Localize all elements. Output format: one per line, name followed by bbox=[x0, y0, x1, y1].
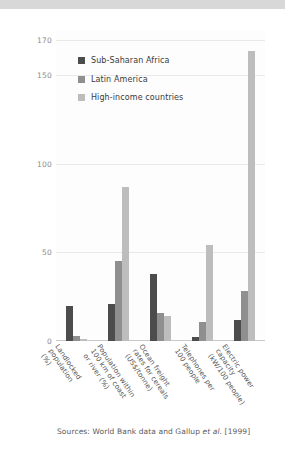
y-axis-tick-label: 0 bbox=[22, 337, 52, 346]
legend-item: Latin America bbox=[78, 75, 183, 84]
bar bbox=[248, 51, 255, 342]
bar bbox=[206, 245, 213, 341]
bar bbox=[199, 322, 206, 341]
legend-label: Latin America bbox=[91, 75, 148, 84]
bar-group bbox=[234, 31, 255, 341]
legend-label: High-income countries bbox=[91, 93, 183, 102]
source-note: Sources: World Bank data and Gallup et a… bbox=[57, 427, 250, 436]
bar bbox=[108, 304, 115, 341]
bar bbox=[150, 274, 157, 341]
bar bbox=[115, 261, 122, 341]
bar bbox=[73, 336, 80, 341]
y-axis-tick-label: 50 bbox=[22, 248, 52, 257]
bar bbox=[66, 306, 73, 341]
bar bbox=[192, 337, 199, 341]
bar-group bbox=[192, 31, 213, 341]
legend-item: Sub-Saharan Africa bbox=[78, 56, 183, 65]
bar bbox=[234, 320, 241, 341]
bar bbox=[122, 187, 129, 341]
chart-legend: Sub-Saharan AfricaLatin AmericaHigh-inco… bbox=[78, 56, 183, 102]
bar bbox=[157, 313, 164, 341]
bar bbox=[80, 339, 87, 341]
bar bbox=[164, 316, 171, 341]
x-axis-category-labels: Landlocked population (%)Population with… bbox=[56, 343, 265, 423]
y-axis-tick-label: 100 bbox=[22, 160, 52, 169]
legend-swatch-icon bbox=[78, 57, 85, 64]
legend-swatch-icon bbox=[78, 76, 85, 83]
y-axis-tick-label: 150 bbox=[22, 71, 52, 80]
legend-label: Sub-Saharan Africa bbox=[91, 56, 170, 65]
legend-item: High-income countries bbox=[78, 93, 183, 102]
top-grey-band bbox=[0, 0, 285, 9]
chart-figure: 050100150170 Sub-Saharan AfricaLatin Ame… bbox=[0, 9, 285, 449]
y-axis-tick-label: 170 bbox=[22, 36, 52, 45]
legend-swatch-icon bbox=[78, 94, 85, 101]
bar bbox=[241, 291, 248, 341]
